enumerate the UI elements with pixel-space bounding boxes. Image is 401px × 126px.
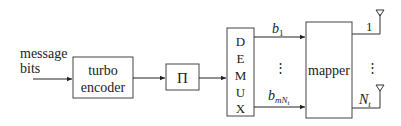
- transmitter-block-diagram: message bits turbo encoder Π D E M U X b…: [0, 0, 401, 126]
- demux-letter-u: U: [236, 85, 246, 100]
- interleaver-label: Π: [177, 70, 188, 86]
- encoder-label-turbo: turbo: [88, 63, 118, 78]
- input-label-message: message: [20, 46, 67, 61]
- antenna-nt-label: Nt: [358, 92, 371, 109]
- antenna-1-icon: [376, 10, 384, 16]
- demux-letter-x: X: [236, 101, 246, 116]
- antenna-1-label: 1: [366, 19, 373, 34]
- stream-bmnt-label: bmNt: [268, 88, 291, 107]
- demux-letter-d: D: [236, 34, 245, 49]
- stream-ellipsis: ⋮: [274, 60, 287, 75]
- input-label-bits: bits: [20, 61, 40, 76]
- demux-letter-m: M: [235, 68, 247, 83]
- demux-letter-e: E: [237, 51, 245, 66]
- antenna-nt-icon: [376, 85, 384, 91]
- stream-b1-label: b1: [272, 21, 284, 38]
- encoder-label-encoder: encoder: [81, 80, 126, 95]
- mapper-label: mapper: [308, 63, 350, 78]
- antenna-ellipsis: ⋮: [366, 60, 379, 75]
